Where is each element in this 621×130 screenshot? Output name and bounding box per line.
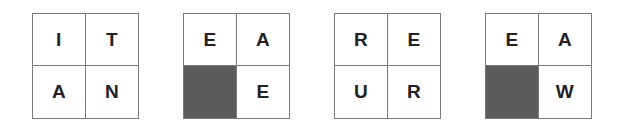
grid-cell[interactable]: A	[237, 14, 290, 66]
letter-grid-3: R E U R	[334, 13, 441, 119]
grid-cell[interactable]: T	[86, 14, 139, 66]
grid-cell[interactable]: E	[388, 14, 441, 66]
shaded-cell	[184, 66, 237, 118]
letter-grid-1: I T A N	[32, 13, 139, 119]
letter-grid-2: E A E	[183, 13, 290, 119]
grid-cell[interactable]: A	[33, 66, 86, 118]
grid-cell[interactable]: E	[237, 66, 290, 118]
letter-grid-4: E A W	[485, 13, 592, 119]
grid-cell[interactable]: E	[184, 14, 237, 66]
grid-cell[interactable]: A	[539, 14, 592, 66]
shaded-cell	[486, 66, 539, 118]
grid-cell[interactable]: W	[539, 66, 592, 118]
grid-cell[interactable]: U	[335, 66, 388, 118]
grid-cell[interactable]: R	[335, 14, 388, 66]
grid-cell[interactable]: N	[86, 66, 139, 118]
grid-cell[interactable]: I	[33, 14, 86, 66]
grid-cell[interactable]: E	[486, 14, 539, 66]
grid-cell[interactable]: R	[388, 66, 441, 118]
